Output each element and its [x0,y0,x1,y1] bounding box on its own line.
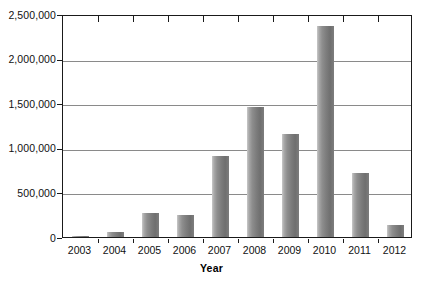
gridline [63,105,411,106]
bar [107,232,125,237]
y-axis-tick-label: 2,000,000 [0,54,56,65]
bottom-axis-tick [343,239,344,243]
gridline [63,150,411,151]
bottom-axis-tick [238,239,239,243]
top-axis-tick [98,16,99,22]
y-axis-tick-label: 500,000 [0,188,56,199]
y-axis-tick-label: 1,000,000 [0,143,56,154]
bottom-axis-tick [133,239,134,243]
bottom-axis-tick [308,239,309,243]
bar [387,225,405,237]
x-axis-tick-label: 2003 [62,245,97,256]
top-axis-tick [308,16,309,22]
bar [317,26,335,237]
bar [352,173,370,237]
bar [282,134,300,237]
top-axis-tick [378,16,379,22]
bar [247,107,265,237]
x-axis-tick-label: 2007 [202,245,237,256]
top-axis-tick [133,16,134,22]
bottom-axis-tick [98,239,99,243]
y-axis-tick-label: 0 [0,233,56,244]
bar [212,156,230,237]
top-axis-tick [343,16,344,22]
x-axis-tick-label: 2004 [97,245,132,256]
x-axis-tick-label: 2010 [307,245,342,256]
x-axis-tick-label: 2011 [342,245,377,256]
x-axis-tick-label: 2009 [272,245,307,256]
y-axis-tick-label: 1,500,000 [0,99,56,110]
x-axis-tick-label: 2006 [167,245,202,256]
y-axis-tick-label: 2,500,000 [0,10,56,21]
plot-area [62,15,412,238]
bottom-axis-tick [273,239,274,243]
top-axis-tick [273,16,274,22]
bar [72,236,90,237]
bar-chart: 0500,0001,000,0001,500,0002,000,0002,500… [0,0,423,283]
top-axis-tick [168,16,169,22]
x-axis-tick-label: 2012 [377,245,412,256]
y-axis-tick-mark [57,238,62,239]
top-axis-tick [203,16,204,22]
x-axis-tick-label: 2008 [237,245,272,256]
top-axis-tick [238,16,239,22]
gridline [63,61,411,62]
bar [177,215,195,237]
bottom-axis-tick [203,239,204,243]
bottom-axis-tick [378,239,379,243]
x-axis-title: Year [0,262,423,274]
x-axis-tick-label: 2005 [132,245,167,256]
bar [142,213,160,237]
bottom-axis-tick [168,239,169,243]
